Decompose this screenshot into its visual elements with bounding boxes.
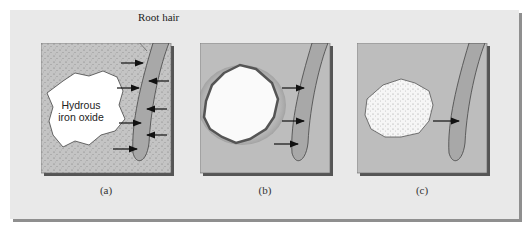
caption-c: (c) xyxy=(357,184,487,196)
root-hair-label: Root hair xyxy=(138,11,179,23)
caption-a: (a) xyxy=(41,184,171,196)
panel-b xyxy=(200,43,330,173)
oxide-label-line1: Hydrous xyxy=(51,99,111,111)
panel-b-diagram xyxy=(200,43,336,179)
oxide-label-line2: iron oxide xyxy=(51,111,111,123)
oxide-label: Hydrous iron oxide xyxy=(51,99,111,123)
panel-a: Hydrous iron oxide xyxy=(41,43,171,173)
panel-c-diagram xyxy=(357,43,493,179)
panel-c xyxy=(357,43,487,173)
caption-b: (b) xyxy=(200,184,330,196)
